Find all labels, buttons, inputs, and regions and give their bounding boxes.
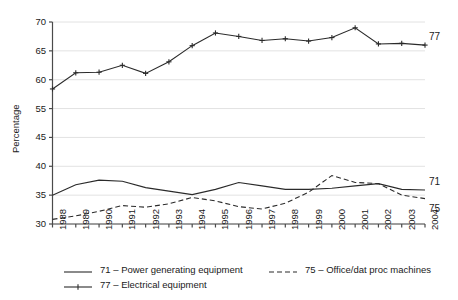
- marker-plus-77: [96, 70, 101, 75]
- marker-plus-77: [422, 42, 427, 47]
- y-tick-label: 65: [22, 46, 46, 56]
- chart-legend: 71 – Power generating equipment75 – Offi…: [0, 262, 458, 300]
- x-tick-label: 1997: [266, 208, 277, 229]
- y-axis-title: Percentage: [10, 104, 21, 153]
- legend-item[interactable]: 71 – Power generating equipment: [63, 264, 243, 276]
- x-tick-label: 1993: [173, 208, 184, 229]
- y-tick-label: 60: [22, 75, 46, 85]
- y-tick-label: 35: [22, 190, 46, 200]
- marker-plus-77: [259, 38, 264, 43]
- x-tick-label: 1999: [313, 208, 324, 229]
- end-label-77: 77: [429, 31, 440, 42]
- x-tick-label: 2003: [406, 208, 417, 229]
- line-chart: 7065605545403530 19881989199019911992199…: [0, 0, 458, 300]
- x-tick-label: 1988: [57, 208, 68, 229]
- end-label-71: 71: [429, 176, 440, 187]
- x-tick-label: 2001: [359, 208, 370, 229]
- x-tick-label: 1998: [289, 208, 300, 229]
- marker-plus-77: [213, 30, 218, 35]
- legend-label: 75 – Office/dat proc machines: [305, 264, 431, 276]
- x-tick-label: 2002: [382, 208, 393, 229]
- marker-plus-77: [143, 71, 148, 76]
- x-tick-label: 1996: [243, 208, 254, 229]
- legend-label: 71 – Power generating equipment: [100, 264, 243, 276]
- series-line-71: [53, 180, 426, 195]
- y-tick-label: 70: [22, 17, 46, 27]
- x-tick-label: 1991: [126, 208, 137, 229]
- x-tick-label: 1995: [219, 208, 230, 229]
- x-tick-label: 1990: [103, 208, 114, 229]
- plot-area: 7065605545403530 19881989199019911992199…: [0, 0, 458, 258]
- marker-plus-77: [236, 34, 241, 39]
- x-tick-label: 1989: [80, 208, 91, 229]
- end-label-75: 75: [429, 203, 440, 214]
- marker-plus-77: [120, 63, 125, 68]
- marker-plus-77: [329, 35, 334, 40]
- marker-plus-77: [399, 41, 404, 46]
- x-tick-label: 2000: [336, 208, 347, 229]
- y-tick-label: 55: [22, 104, 46, 114]
- y-tick-label: 40: [22, 161, 46, 171]
- x-tick-label: 1994: [196, 208, 207, 229]
- legend-key-icon: [63, 279, 93, 291]
- y-tick-label: 30: [22, 219, 46, 229]
- legend-item[interactable]: 75 – Office/dat proc machines: [268, 264, 431, 276]
- legend-label: 77 – Electrical equipment: [100, 279, 207, 291]
- y-tick-label: 45: [22, 132, 46, 142]
- legend-key-icon: [63, 264, 93, 276]
- x-tick-label: 1992: [150, 208, 161, 229]
- legend-item[interactable]: 77 – Electrical equipment: [63, 279, 207, 291]
- legend-key-icon: [268, 264, 298, 276]
- marker-plus-77: [306, 38, 311, 43]
- marker-plus-77: [283, 36, 288, 41]
